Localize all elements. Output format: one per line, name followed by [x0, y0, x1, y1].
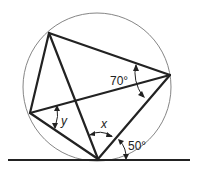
arrowhead-50-top: [118, 139, 124, 145]
arrowhead-x-right: [106, 132, 113, 137]
angle-label-y: y: [60, 114, 68, 128]
geometry-diagram: 70° y x 50°: [0, 0, 204, 174]
angle-label-50: 50°: [128, 139, 146, 153]
arrowhead-c-bottom: [138, 91, 145, 98]
angle-label-70: 70°: [110, 74, 128, 88]
edge-ad: [30, 33, 49, 113]
edge-dc: [30, 75, 170, 113]
diagram-canvas: 70° y x 50°: [0, 0, 204, 174]
edge-ac: [49, 33, 170, 75]
angle-label-x: x: [100, 117, 108, 131]
circumcircle: [23, 13, 171, 161]
